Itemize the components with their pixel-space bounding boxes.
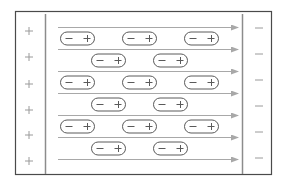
diagram-canvas <box>0 0 288 185</box>
dipole <box>61 32 95 45</box>
plus-charge-icon <box>25 53 33 61</box>
plus-charge-icon <box>25 80 33 88</box>
dipole <box>154 98 188 111</box>
dipole <box>154 142 188 155</box>
left-plate-positive-charges <box>25 27 33 165</box>
dipole <box>92 142 126 155</box>
electric-field-lines <box>58 28 238 160</box>
dipole <box>185 120 219 133</box>
dipole <box>92 54 126 67</box>
dipole <box>185 76 219 89</box>
dipole <box>61 120 95 133</box>
dipole <box>61 76 95 89</box>
dipole <box>123 76 157 89</box>
dipole <box>92 98 126 111</box>
dipole <box>185 32 219 45</box>
dipole <box>123 32 157 45</box>
plus-charge-icon <box>25 157 33 165</box>
dipole <box>154 54 188 67</box>
plus-charge-icon <box>25 131 33 139</box>
plus-charge-icon <box>25 106 33 114</box>
dielectric-diagram <box>0 0 288 185</box>
right-plate-negative-charges <box>255 28 263 158</box>
dipole <box>123 120 157 133</box>
plus-charge-icon <box>25 27 33 35</box>
